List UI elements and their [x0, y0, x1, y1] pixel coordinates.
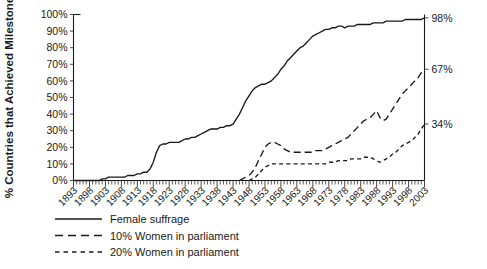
x-tick-label: 2003 — [407, 184, 431, 208]
axis-lines — [74, 15, 425, 181]
y-tick-label: 70% — [46, 58, 67, 70]
series-line-short-dash — [249, 124, 425, 180]
chart-figure: % Countries that Achieved Milestone 0%10… — [0, 0, 487, 269]
y-tick-label: 80% — [46, 41, 67, 53]
chart-legend: Female suffrage10% Women in parliament20… — [55, 213, 239, 258]
y-tick-label: 100% — [41, 8, 68, 20]
y-tick-label: 50% — [46, 91, 67, 103]
data-series-group — [74, 18, 425, 181]
end-label-text: 98% — [432, 12, 453, 24]
end-value-labels: 98%67%34% — [425, 12, 453, 130]
y-axis-title: % Countries that Achieved Milestone — [3, 0, 15, 198]
y-tick-label: 20% — [46, 141, 67, 153]
y-tick-label: 60% — [46, 75, 67, 87]
legend-label: Female suffrage — [110, 213, 189, 225]
legend-label: 20% Women in parliament — [110, 246, 239, 258]
y-tick-label: 0% — [52, 174, 67, 186]
series-line-long-dash — [239, 69, 424, 180]
legend-label: 10% Women in parliament — [110, 230, 239, 242]
y-tick-label: 10% — [46, 158, 67, 170]
end-label-text: 34% — [432, 118, 453, 130]
x-axis-ticks: 1893189819031908191319181923192819331938… — [56, 181, 431, 209]
y-tick-label: 40% — [46, 108, 67, 120]
line-chart-svg: % Countries that Achieved Milestone 0%10… — [0, 0, 487, 269]
series-line-solid — [74, 18, 425, 181]
y-axis-ticks: 0%10%20%30%40%50%60%70%80%90%100% — [41, 8, 74, 186]
y-axis-title-text: % Countries that Achieved Milestone — [3, 0, 15, 198]
y-tick-label: 30% — [46, 124, 67, 136]
y-tick-label: 90% — [46, 25, 67, 37]
end-label-text: 67% — [432, 63, 453, 75]
